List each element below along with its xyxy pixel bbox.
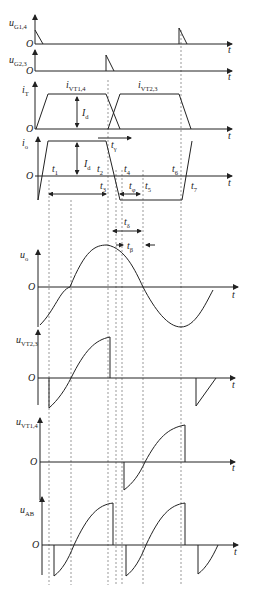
label-uG14: uG1,4 — [9, 18, 27, 31]
time-guides — [49, 30, 181, 585]
origin-label: O — [32, 540, 39, 550]
time-axis-label: t — [228, 72, 231, 82]
time-axis-label: t — [232, 290, 235, 300]
origin-label: O — [26, 171, 33, 181]
label-Id: Id — [82, 108, 89, 121]
interval-t-phi: tφ — [129, 181, 136, 194]
time-axis-label: t — [232, 463, 235, 473]
label-uAB: uAB — [20, 505, 34, 518]
panel-uo — [38, 245, 238, 327]
mark-t4: t4 — [124, 164, 130, 177]
mark-t6: t6 — [172, 164, 178, 177]
origin-label: O — [28, 282, 35, 292]
panel-iT — [35, 82, 232, 129]
mark-t5: t5 — [145, 181, 151, 194]
mark-t3: t3 — [100, 181, 106, 194]
mark-t2: t2 — [97, 164, 103, 177]
label-uG23: uG2,3 — [9, 55, 27, 68]
mark-t1: t1 — [52, 164, 58, 177]
origin-label: O — [30, 457, 37, 467]
panel-uG14 — [35, 15, 232, 44]
interval-t-beta: tβ — [127, 241, 133, 254]
panel-uVT14 — [40, 418, 235, 500]
label-uVT14: uVT1,4 — [16, 417, 38, 430]
time-axis-label: t — [228, 178, 231, 188]
waveform-canvas — [0, 0, 256, 600]
label-iVT23: iVT2,3 — [138, 80, 158, 93]
label-uo: uo — [20, 250, 28, 263]
time-axis-label: t — [228, 131, 231, 141]
label-iVT14: iVT1,4 — [66, 80, 86, 93]
time-axis-label: t — [232, 380, 235, 390]
label-iT: iT — [22, 85, 29, 98]
panel-uG23 — [35, 50, 232, 71]
label-uVT23: uVT2,3 — [16, 335, 38, 348]
time-axis-label: t — [234, 547, 237, 557]
interval-t-gamma: tγ — [111, 140, 117, 153]
time-axis-label: t — [228, 45, 231, 55]
origin-label: O — [26, 66, 33, 76]
panel-uAB — [42, 497, 238, 576]
origin-label: O — [26, 124, 33, 134]
mark-t7: t7 — [191, 181, 197, 194]
panel-uVT23 — [38, 330, 235, 408]
origin-label: O — [28, 373, 35, 383]
interval-t-delta: tδ — [124, 217, 130, 230]
label-io: io — [22, 138, 28, 151]
label-Id-io: Id — [84, 159, 91, 172]
origin-label: O — [26, 39, 33, 49]
